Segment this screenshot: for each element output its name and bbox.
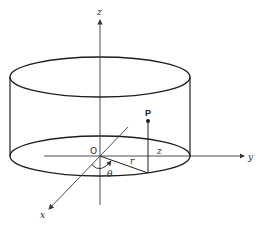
height-label: z	[156, 146, 162, 156]
theta-label: θ	[107, 169, 113, 179]
theta-arc	[92, 161, 111, 169]
z-axis-label: z	[96, 7, 102, 17]
point-p-label: P	[145, 108, 151, 118]
x-axis	[49, 127, 128, 209]
cylindrical-coordinates-diagram: z y x O r z P θ	[0, 0, 266, 228]
point-p-dot	[146, 119, 150, 123]
origin-label: O	[90, 146, 97, 156]
y-axis-label: y	[247, 152, 254, 162]
figure-caption	[34, 218, 234, 228]
radius-label: r	[130, 156, 135, 166]
